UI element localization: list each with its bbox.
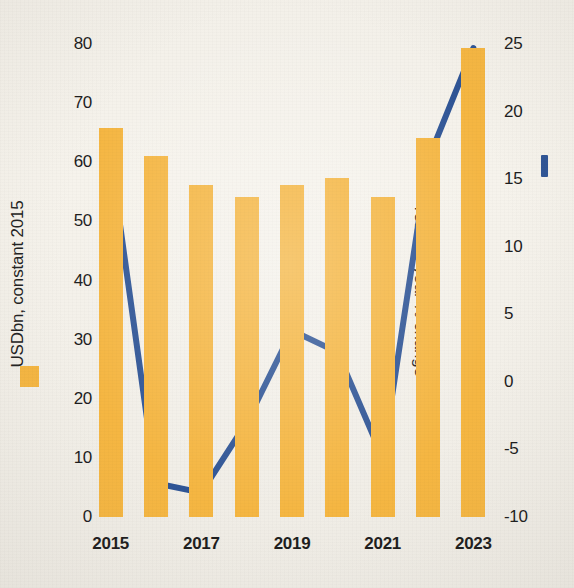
right-tick-label: 5 [504,304,513,324]
plot-area [88,20,496,520]
x-axis-labels: 20152017201920212023 [88,534,496,564]
right-tick-label: 20 [504,102,522,122]
left-axis-title-text: USDbn, constant 2015 [8,200,27,367]
right-tick-label: 15 [504,169,522,189]
bar-2016 [144,156,168,517]
bar-2017 [189,185,213,517]
x-tick-label-2023: 2023 [455,534,492,554]
bar-2019 [280,185,304,517]
bar-2015 [99,128,123,517]
x-tick-label-2021: 2021 [364,534,401,554]
right-axis-ticks: -10-50510152025 [504,0,548,588]
chart-container: USDbn, constant 2015 Year-on-year % chan… [0,0,574,588]
bar-2020 [325,178,349,517]
bar-2022 [416,138,440,517]
bar-2023 [461,48,485,517]
right-tick-label: 0 [504,372,513,392]
left-axis-ticks: 01020304050607080 [52,0,92,588]
legend-bar-swatch-icon [20,366,39,387]
bar-2018 [235,197,259,517]
right-tick-label: -5 [504,439,519,459]
right-tick-label: 10 [504,237,522,257]
x-tick-label-2015: 2015 [92,534,129,554]
right-tick-label: 25 [504,34,522,54]
x-tick-label-2019: 2019 [274,534,311,554]
bar-2021 [371,197,395,517]
right-tick-label: -10 [504,507,528,527]
x-tick-label-2017: 2017 [183,534,220,554]
